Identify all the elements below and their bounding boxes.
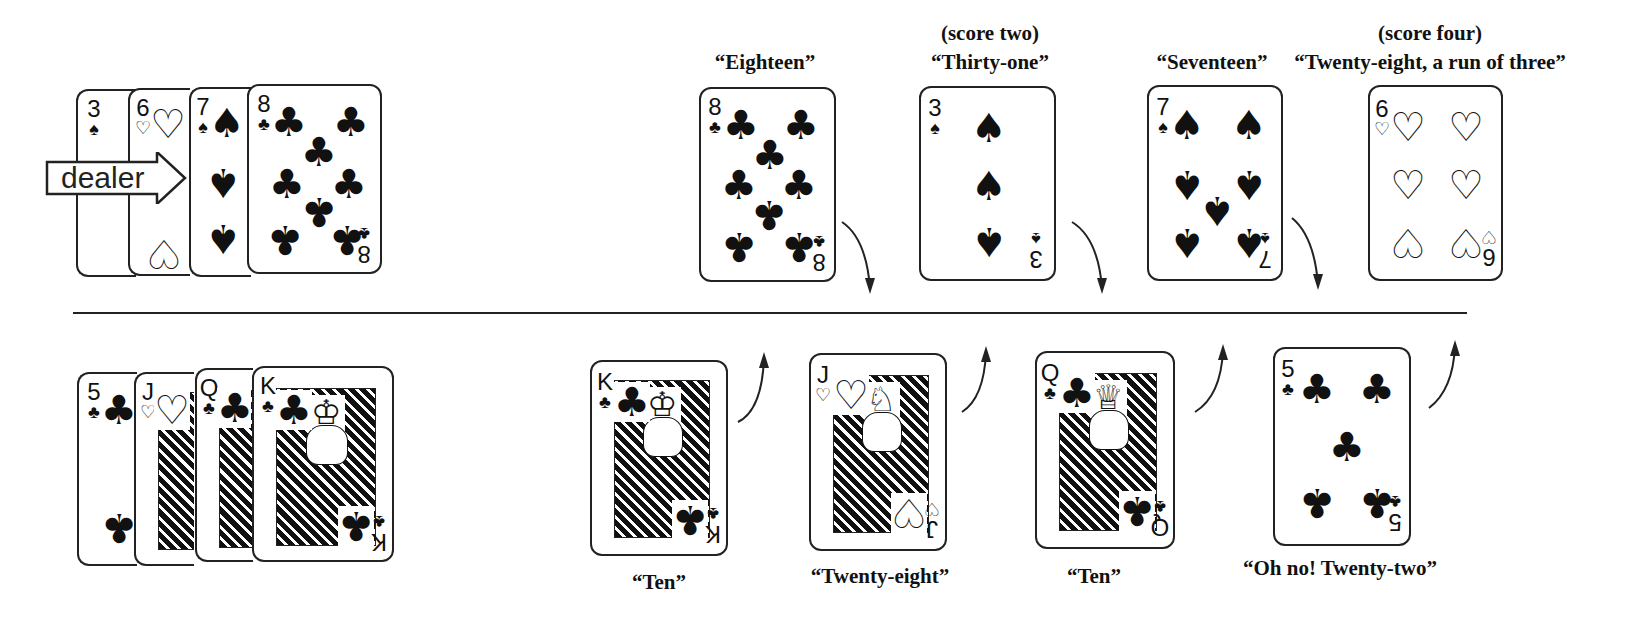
dealer-hand-card-3: 7 ♠ ♠ ♠ ♠ xyxy=(189,87,251,277)
club-pip-icon: ♣ xyxy=(1295,483,1339,523)
curved-arrow-up-icon xyxy=(958,344,1008,424)
club-pip-icon: ♣ xyxy=(1059,373,1095,413)
spade-pip-icon: ♠ xyxy=(205,103,249,143)
call-label: “Ten” xyxy=(632,570,686,595)
card-index: 7 ♠ xyxy=(1255,229,1275,269)
played-card-5-clubs: 5 ♣ ♣ ♣ ♣ ♣ ♣ 5 ♣ xyxy=(1273,347,1411,546)
card-index: Q ♣ xyxy=(1150,497,1170,537)
club-pip-icon: ♣ xyxy=(97,508,137,548)
played-card-J-hearts: J ♡ ♘ ♡ ♡ J ♡ xyxy=(809,353,947,551)
played-card-8-clubs: 8 ♣ ♣ ♣ ♣ ♣ ♣ ♣ ♣ ♣ 8 ♣ xyxy=(699,87,836,282)
spade-pip-icon: ♠ xyxy=(1227,105,1271,145)
card-index: Q ♣ xyxy=(199,378,219,418)
card-index: 3 ♠ xyxy=(925,98,945,138)
queen-head xyxy=(1089,410,1129,450)
curved-arrow-up-icon xyxy=(734,350,784,430)
club-pip-icon: ♣ xyxy=(1295,369,1339,409)
dealer-label: dealer xyxy=(61,161,144,195)
card-index: K ♣ xyxy=(703,504,723,544)
heart-pip-icon: ♡ xyxy=(154,390,190,430)
heart-pip-icon: ♡ xyxy=(1386,223,1430,263)
spade-pip-icon: ♠ xyxy=(1165,223,1209,263)
heart-pip-icon: ♡ xyxy=(142,234,186,274)
card-index: 3 ♠ xyxy=(84,99,104,139)
played-card-Q-clubs: Q ♣ ♕ ♣ ♣ Q ♣ xyxy=(1035,351,1175,549)
call-label: “Ten” xyxy=(1067,564,1121,589)
club-pip-icon: ♣ xyxy=(217,388,251,428)
spade-pip-icon: ♠ xyxy=(967,166,1011,206)
heart-pip-icon: ♡ xyxy=(146,104,190,144)
club-pip-icon: ♣ xyxy=(614,382,650,422)
card-index: 3 ♠ xyxy=(1026,229,1046,269)
dealer-arrow: dealer xyxy=(45,152,187,204)
opponent-hand-card-1: 5 ♣ ♣ ♣ xyxy=(77,372,137,566)
card-index: K ♣ xyxy=(595,372,615,412)
jack-head xyxy=(862,412,902,452)
spade-pip-icon: ♠ xyxy=(201,163,245,203)
card-index: K ♣ xyxy=(258,376,278,416)
curved-arrow-up-icon xyxy=(1425,338,1475,418)
card-index: K ♣ xyxy=(369,512,389,552)
played-card-7-spades: 7 ♠ ♠ ♠ ♠ ♠ ♠ ♠ ♠ 7 ♠ xyxy=(1147,85,1283,281)
divider-line xyxy=(73,312,1467,314)
call-label: “Twenty-eight” xyxy=(811,564,949,589)
call-label: “Twenty-eight, a run of three” xyxy=(1294,50,1566,75)
dealer-hand-card-4: 8 ♣ ♣ ♣ ♣ ♣ ♣ ♣ ♣ ♣ 8 ♣ xyxy=(247,84,382,274)
spade-pip-icon: ♠ xyxy=(201,219,245,259)
card-index: 8 ♣ xyxy=(354,224,374,264)
call-label: “Eighteen” xyxy=(715,50,815,75)
opponent-hand-card-3: Q ♣ ♣ xyxy=(195,368,253,562)
call-label: “Oh no! Twenty-two” xyxy=(1243,556,1437,581)
club-pip-icon: ♣ xyxy=(263,220,307,260)
heart-pip-icon: ♡ xyxy=(1386,165,1430,205)
call-label: “Thirty-one” xyxy=(931,50,1049,75)
heart-pip-icon: ♡ xyxy=(833,375,869,415)
call-label: “Seventeen” xyxy=(1157,50,1268,75)
king-head xyxy=(306,425,347,465)
curved-arrow-down-icon xyxy=(1288,214,1338,294)
club-pip-icon: ♣ xyxy=(1325,427,1369,467)
curved-arrow-down-icon xyxy=(838,218,888,298)
curved-arrow-down-icon xyxy=(1068,218,1118,298)
played-card-6-hearts: 6 ♡ ♡ ♡ ♡ ♡ ♡ ♡ 6 ♡ xyxy=(1368,85,1503,281)
opponent-hand-card-2: J ♡ ♡ xyxy=(134,372,194,566)
club-pip-icon: ♣ xyxy=(97,390,137,430)
spade-pip-icon: ♠ xyxy=(967,108,1011,148)
heart-pip-icon: ♡ xyxy=(1444,107,1488,147)
club-pip-icon: ♣ xyxy=(1355,369,1399,409)
card-index: Q ♣ xyxy=(1040,363,1060,403)
opponent-hand-card-4: K ♣ ♔ ♣ ♣ K ♣ xyxy=(252,366,394,562)
score-label: (score four) xyxy=(1378,21,1482,46)
club-pip-icon: ♣ xyxy=(717,227,761,267)
club-pip-icon: ♣ xyxy=(276,390,312,430)
card-index: J ♡ xyxy=(813,365,833,405)
heart-pip-icon: ♡ xyxy=(1386,107,1430,147)
card-index: 6 ♡ xyxy=(1479,227,1499,267)
curved-arrow-up-icon xyxy=(1191,342,1241,422)
spade-pip-icon: ♠ xyxy=(1165,105,1209,145)
card-index: 8 ♣ xyxy=(809,232,829,272)
card-index: J ♡ xyxy=(922,499,942,539)
spade-pip-icon: ♠ xyxy=(967,222,1011,262)
card-index: 5 ♣ xyxy=(1385,492,1405,532)
played-card-K-clubs: K ♣ ♔ ♣ ♣ K ♣ xyxy=(590,360,728,556)
heart-pip-icon: ♡ xyxy=(1444,165,1488,205)
played-card-3-spades: 3 ♠ ♠ ♠ ♠ 3 ♠ xyxy=(919,86,1056,281)
score-label: (score two) xyxy=(941,21,1039,46)
